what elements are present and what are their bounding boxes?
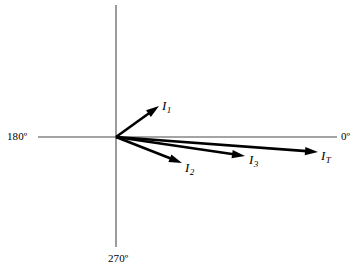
vector-label-i2-subscript: 2	[190, 167, 195, 177]
vector-label-i1-base: I	[162, 98, 166, 113]
vector-label-it-subscript: T	[326, 155, 331, 165]
vector-label-i3-base: I	[249, 152, 253, 167]
vector-i3-arrowhead	[232, 150, 245, 158]
vector-i1	[116, 106, 159, 137]
vector-label-it: IT	[321, 149, 330, 162]
axis-label-0: 0º	[341, 131, 350, 142]
vector-label-i2-base: I	[185, 160, 189, 175]
axis-label-180: 180º	[7, 131, 27, 142]
axis-group	[38, 5, 337, 247]
axis-label-270: 270º	[108, 253, 128, 264]
phasor-diagram-canvas	[0, 0, 354, 272]
vector-it-arrowhead	[305, 147, 318, 155]
phasor-diagram-figure: 180º 0º 270º I1 I2 I3 IT	[0, 0, 354, 272]
vector-label-i1: I1	[162, 99, 171, 112]
vector-label-i3: I3	[249, 153, 258, 166]
vector-label-i2: I2	[185, 161, 194, 174]
vector-group	[116, 106, 318, 163]
vector-i2-arrowhead	[168, 154, 182, 163]
vector-i3	[116, 137, 245, 158]
vector-label-it-base: I	[321, 148, 325, 163]
vector-label-i3-subscript: 3	[254, 159, 259, 169]
vector-label-i1-subscript: 1	[167, 105, 172, 115]
vector-i1-shaft	[116, 111, 152, 137]
